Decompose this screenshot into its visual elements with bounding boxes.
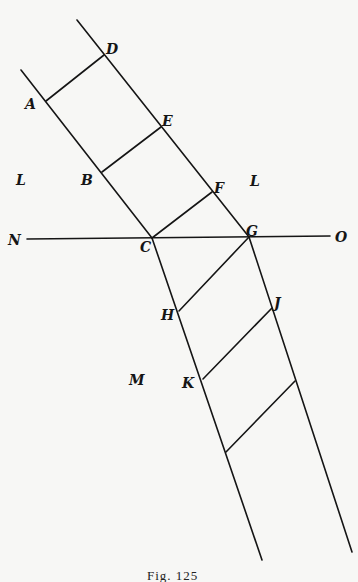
label-O: O xyxy=(335,229,348,245)
segment-BE xyxy=(102,127,161,172)
segment-AD xyxy=(46,55,104,101)
geometry-figure: D A E L B F L N C G O H J M K Fig. 125 xyxy=(0,0,358,582)
label-F: F xyxy=(213,180,225,196)
label-B: B xyxy=(80,172,93,188)
segment-lower xyxy=(226,381,295,452)
label-M: M xyxy=(128,372,145,388)
label-K: K xyxy=(181,375,195,391)
label-C: C xyxy=(140,239,151,255)
label-A: A xyxy=(23,96,36,112)
label-N: N xyxy=(7,232,22,248)
label-H: H xyxy=(160,307,175,323)
left-line-lower xyxy=(152,238,262,560)
label-L-left: L xyxy=(15,172,26,188)
segment-CF xyxy=(152,192,212,238)
label-E: E xyxy=(161,113,173,129)
label-G: G xyxy=(246,223,258,239)
label-D: D xyxy=(105,41,119,57)
left-line-upper xyxy=(21,70,152,238)
horizontal-line-NO xyxy=(27,236,330,239)
segment-HG xyxy=(179,237,249,311)
figure-caption: Fig. 125 xyxy=(147,568,198,582)
right-line-lower xyxy=(249,237,352,552)
label-L-right: L xyxy=(249,173,260,189)
segment-KJ xyxy=(203,308,272,379)
